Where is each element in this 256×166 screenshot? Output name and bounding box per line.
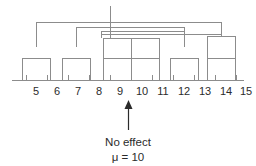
box-7-level-1 xyxy=(63,59,91,81)
dotplot-bracket-figure: 5 6 7 8 9 10 11 12 13 14 15 No effect μ … xyxy=(0,0,256,166)
annotation-line-1: No effect xyxy=(105,136,152,148)
tick-label-8: 8 xyxy=(96,85,102,97)
box-14-level-1 xyxy=(208,59,236,81)
box-9-level-2 xyxy=(104,39,132,59)
tick-label-14: 14 xyxy=(220,85,232,97)
tick-label-13: 13 xyxy=(199,85,211,97)
arrow-head xyxy=(125,100,133,109)
tick-label-6: 6 xyxy=(54,85,60,97)
tick-label-11: 11 xyxy=(157,85,168,97)
box-10-level-1 xyxy=(132,59,160,81)
tick-label-12: 12 xyxy=(178,85,190,97)
box-14-level-2 xyxy=(208,37,236,59)
up-arrow-icon xyxy=(125,100,133,130)
tick-label-9: 9 xyxy=(117,85,123,97)
box-9-level-1 xyxy=(104,59,132,81)
tick-label-7: 7 xyxy=(75,85,81,97)
axis-tick-labels: 5 6 7 8 9 10 11 12 13 14 15 xyxy=(33,85,252,97)
axis-ticks xyxy=(27,75,237,81)
figure-container: 5 6 7 8 9 10 11 12 13 14 15 No effect μ … xyxy=(0,0,256,166)
box-stacks xyxy=(23,37,236,81)
annotation-text-group: No effect μ = 10 xyxy=(105,136,152,163)
tick-label-10: 10 xyxy=(136,85,148,97)
bracket-center-pair xyxy=(102,34,222,38)
tick-label-5: 5 xyxy=(33,85,39,97)
annotation-line-2: μ = 10 xyxy=(112,151,145,163)
tick-label-15: 15 xyxy=(240,85,252,97)
box-10-level-2 xyxy=(132,39,160,59)
